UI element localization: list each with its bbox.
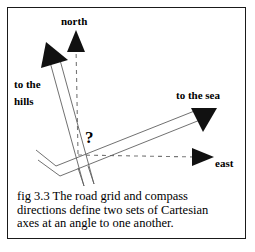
label-to-the-sea: to the sea: [176, 88, 220, 103]
sea-road-stub-lower: [38, 160, 60, 176]
angle-marker-label: ?: [85, 128, 94, 148]
east-axis: [78, 148, 214, 166]
road-to-the-sea: [56, 108, 217, 176]
caption-line: axes at an angle to one another.: [17, 217, 232, 231]
figure-caption: fig 3.3 The road grid and compass direct…: [17, 190, 232, 231]
hills-road-stub-right: [88, 166, 94, 184]
sea-road-stub-upper: [36, 150, 56, 166]
east-arrowhead-icon: [192, 148, 214, 166]
sea-road-edge-lower: [60, 120, 200, 176]
label-to-the-hills: to the hills: [14, 76, 58, 110]
sea-arrowhead-icon: [191, 108, 217, 132]
label-north: north: [61, 14, 87, 29]
north-arrowhead-icon: [67, 30, 85, 52]
hills-arrowhead-icon: [41, 42, 68, 68]
road-stubs: [36, 150, 94, 186]
label-east: east: [215, 156, 233, 171]
figure-root: north east to the sea to the hills ? fig…: [0, 0, 255, 252]
caption-line: fig 3.3 The road grid and compass: [17, 190, 232, 204]
caption-line: directions define two sets of Cartesian: [17, 204, 232, 218]
hills-road-stub-left: [78, 168, 84, 186]
east-axis-line: [78, 155, 198, 157]
road-to-the-hills: [41, 42, 94, 186]
north-axis-line: [76, 46, 78, 154]
